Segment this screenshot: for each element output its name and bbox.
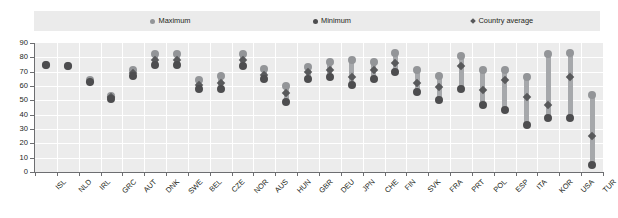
x-axis-category-label: DEU [339,178,355,194]
x-axis-tick [450,172,451,176]
gridline-vertical [232,43,233,172]
x-axis-tick [341,172,342,176]
gridline-vertical [494,43,495,172]
data-point-minimum [457,85,465,93]
x-axis-category-label: PRT [470,178,486,194]
y-axis-tick [30,43,34,44]
x-axis-category-label: BEL [208,178,223,193]
legend-item-maximum: Maximum [150,17,191,24]
legend-label-country-average: Country average [479,17,534,24]
x-axis-category-label: USA [580,178,596,194]
x-axis-tick [232,172,233,176]
y-axis-labels: 9080706050403020100 [0,0,28,218]
gridline-vertical [253,43,254,172]
x-axis-tick [275,172,276,176]
x-axis-tick [319,172,320,176]
data-point-minimum [544,114,552,122]
x-axis-category-label: SVK [427,178,443,194]
y-axis-tick-label: 80 [2,53,28,61]
data-point-minimum [239,62,247,70]
gridline-vertical [210,43,211,172]
data-point-minimum [129,72,137,80]
gridline-vertical [385,43,386,172]
data-point-maximum [348,56,356,64]
x-axis-tick [406,172,407,176]
data-point-minimum [370,75,378,83]
data-point-minimum [195,85,203,93]
data-point-minimum [282,98,290,106]
data-point-maximum [457,52,465,60]
gridline-vertical [319,43,320,172]
y-axis-tick [30,100,34,101]
x-axis-category-label: NOR [252,178,269,195]
y-axis-tick [30,72,34,73]
x-axis-tick [253,172,254,176]
x-axis-category-label: AUS [274,178,290,194]
data-point-minimum [435,96,443,104]
data-point-country-average [544,100,552,108]
x-axis-category-label: GRC [121,178,138,195]
gridline-vertical [516,43,517,172]
gridline-vertical [341,43,342,172]
gridline-vertical [406,43,407,172]
data-point-maximum [479,66,487,74]
data-point-minimum [173,61,181,69]
y-axis-tick-label: 10 [2,154,28,162]
x-axis-tick [188,172,189,176]
data-point-minimum [260,75,268,83]
data-point-minimum [348,81,356,89]
x-axis-category-label: HUN [296,178,313,195]
x-axis-tick [57,172,58,176]
data-point-minimum [217,85,225,93]
data-point-minimum [151,61,159,69]
x-axis-tick [35,172,36,176]
y-axis-tick [30,158,34,159]
x-axis-category-label: CZE [230,178,246,194]
legend-swatch-country-average-icon [470,18,476,24]
y-axis-tick-label: 90 [2,39,28,47]
x-axis-category-label: ESP [514,178,530,194]
x-axis-tick [559,172,560,176]
legend-item-minimum: Minimum [313,17,351,24]
gridline-vertical [166,43,167,172]
data-point-minimum [566,114,574,122]
data-point-minimum [501,106,509,114]
data-point-maximum [413,66,421,74]
data-point-maximum [435,72,443,80]
gridline-vertical [101,43,102,172]
x-axis-tick [516,172,517,176]
range-bar [590,95,595,165]
gridline-vertical [122,43,123,172]
data-point-minimum [391,68,399,76]
x-axis-tick [428,172,429,176]
y-axis-tick-label: 0 [2,168,28,176]
x-axis-category-label: DNK [165,178,181,194]
data-point-minimum [523,121,531,129]
data-point-minimum [86,78,94,86]
data-point-maximum [523,73,531,81]
x-axis-tick [494,172,495,176]
y-axis-tick-label: 30 [2,125,28,133]
data-point-maximum [566,49,574,57]
x-axis-tick [363,172,364,176]
gridline-vertical [275,43,276,172]
x-axis-category-label: JPN [361,178,376,193]
x-axis-tick [101,172,102,176]
x-axis-category-label: POL [492,178,508,194]
x-axis-tick [297,172,298,176]
x-axis-category-label: KOR [558,178,575,195]
x-axis-category-label: SWE [187,178,204,195]
gridline-vertical [188,43,189,172]
x-axis-category-label: ISL [54,178,67,191]
x-axis-tick [581,172,582,176]
legend-swatch-maximum-icon [150,19,155,24]
x-axis-tick [472,172,473,176]
data-point-maximum [501,66,509,74]
data-point-minimum [107,95,115,103]
chart-legend: Maximum Minimum Country average [34,11,600,31]
x-axis-tick [603,172,604,176]
y-axis-tick-label: 70 [2,68,28,76]
x-axis-tick [385,172,386,176]
x-axis-category-label: IRL [98,178,111,191]
y-axis-tick [30,86,34,87]
